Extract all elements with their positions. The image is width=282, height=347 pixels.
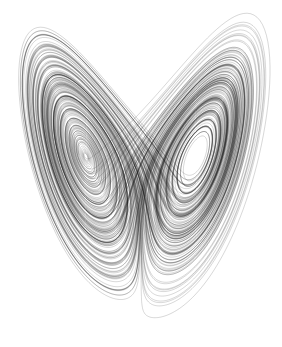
lorenz-attractor-figure bbox=[0, 0, 282, 347]
attractor-canvas bbox=[0, 0, 282, 347]
